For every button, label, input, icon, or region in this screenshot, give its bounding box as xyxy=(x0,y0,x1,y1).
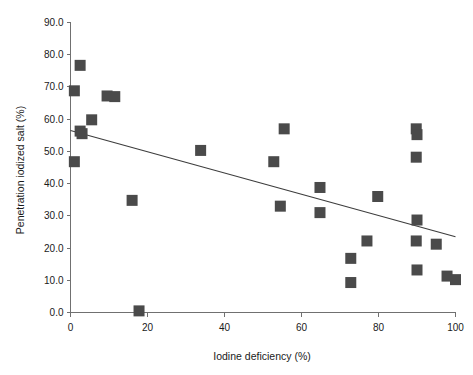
data-point-marker xyxy=(86,114,97,125)
y-tick-label: 60.0 xyxy=(44,114,64,125)
data-point-marker xyxy=(314,207,325,218)
data-point-marker xyxy=(372,191,383,202)
y-tick-label: 40.0 xyxy=(44,178,64,189)
scatter-chart: 0.010.020.030.040.050.060.070.080.090.0 … xyxy=(0,0,473,375)
data-point-marker xyxy=(69,156,80,167)
data-point-marker xyxy=(412,215,423,226)
y-axis-title: Penetration iodized salt (%) xyxy=(14,106,26,234)
data-point-marker xyxy=(412,264,423,275)
data-point-marker xyxy=(431,239,442,250)
x-tick-label: 0 xyxy=(68,322,74,333)
trend-line xyxy=(71,130,456,236)
data-point-marker xyxy=(411,152,422,163)
data-point-marker xyxy=(345,277,356,288)
data-point-marker xyxy=(411,235,422,246)
x-tick-label: 100 xyxy=(447,322,464,333)
chart-canvas: 0.010.020.030.040.050.060.070.080.090.0 … xyxy=(0,0,473,375)
data-point-marker xyxy=(109,91,120,102)
y-tick-label: 50.0 xyxy=(44,146,64,157)
data-point-marker xyxy=(69,85,80,96)
x-axis-title: Iodine deficiency (%) xyxy=(213,350,310,362)
data-point-marker xyxy=(127,195,138,206)
x-tick-label: 80 xyxy=(373,322,385,333)
y-tick-label: 0.0 xyxy=(50,307,64,318)
y-tick-label: 20.0 xyxy=(44,243,64,254)
data-point-marker xyxy=(412,129,423,140)
data-point-marker xyxy=(134,305,145,316)
data-points xyxy=(69,60,461,317)
y-tick-labels: 0.010.020.030.040.050.060.070.080.090.0 xyxy=(44,17,64,318)
regression-line xyxy=(71,130,456,236)
data-point-marker xyxy=(275,201,286,212)
data-point-marker xyxy=(77,128,88,139)
data-point-marker xyxy=(75,60,86,71)
data-point-marker xyxy=(314,182,325,193)
y-tick-label: 10.0 xyxy=(44,275,64,286)
data-point-marker xyxy=(279,123,290,134)
y-axis xyxy=(67,23,71,313)
x-tick-label: 40 xyxy=(219,322,231,333)
data-point-marker xyxy=(361,235,372,246)
y-tick-label: 30.0 xyxy=(44,210,64,221)
y-tick-label: 90.0 xyxy=(44,17,64,28)
x-axis xyxy=(71,313,456,317)
x-tick-label: 60 xyxy=(296,322,308,333)
data-point-marker xyxy=(195,145,206,156)
data-point-marker xyxy=(345,253,356,264)
y-tick-label: 70.0 xyxy=(44,81,64,92)
data-point-marker xyxy=(268,156,279,167)
x-tick-label: 20 xyxy=(142,322,154,333)
data-point-marker xyxy=(450,274,461,285)
x-tick-labels: 020406080100 xyxy=(68,322,465,333)
y-tick-label: 80.0 xyxy=(44,49,64,60)
